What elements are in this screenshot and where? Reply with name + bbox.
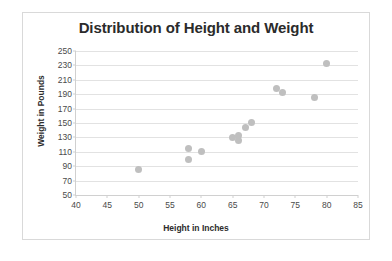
x-tick-mark xyxy=(170,195,171,198)
x-tick-mark xyxy=(326,195,327,198)
y-tick-mark xyxy=(73,65,76,66)
x-tick-mark xyxy=(358,195,359,198)
x-tick-label: 80 xyxy=(322,200,331,210)
y-tick-mark xyxy=(73,51,76,52)
gridline-horizontal xyxy=(76,109,358,110)
chart-frame: Distribution of Height and Weight Weight… xyxy=(22,12,370,240)
x-tick-mark xyxy=(295,195,296,198)
y-tick-mark xyxy=(73,123,76,124)
y-tick-label: 210 xyxy=(58,75,72,85)
y-tick-mark xyxy=(73,79,76,80)
y-tick-label: 70 xyxy=(63,176,72,186)
gridline-horizontal xyxy=(76,123,358,124)
y-axis-title: Weight in Pounds xyxy=(36,66,46,156)
x-axis-title: Height in Inches xyxy=(23,223,369,233)
data-point xyxy=(185,156,192,163)
data-point xyxy=(323,60,330,67)
gridline-horizontal xyxy=(76,152,358,153)
x-tick-label: 75 xyxy=(291,200,300,210)
y-tick-mark xyxy=(73,137,76,138)
y-tick-mark xyxy=(73,94,76,95)
x-tick-label: 50 xyxy=(134,200,143,210)
data-point xyxy=(311,94,318,101)
gridline-horizontal xyxy=(76,51,358,52)
x-tick-mark xyxy=(76,195,77,198)
x-tick-label: 45 xyxy=(103,200,112,210)
x-tick-mark xyxy=(201,195,202,198)
plot-area: 5070901101301501701902102302504045505560… xyxy=(75,51,358,196)
gridline-horizontal xyxy=(76,137,358,138)
x-tick-label: 70 xyxy=(259,200,268,210)
y-tick-mark xyxy=(73,108,76,109)
y-tick-label: 230 xyxy=(58,60,72,70)
y-tick-label: 110 xyxy=(58,147,72,157)
gridline-horizontal xyxy=(76,80,358,81)
y-tick-label: 170 xyxy=(58,104,72,114)
chart-title: Distribution of Height and Weight xyxy=(23,19,369,36)
data-point xyxy=(279,89,286,96)
data-point xyxy=(198,148,205,155)
data-point xyxy=(242,124,249,131)
x-tick-mark xyxy=(264,195,265,198)
y-tick-label: 150 xyxy=(58,118,72,128)
y-tick-label: 50 xyxy=(63,190,72,200)
x-tick-mark xyxy=(107,195,108,198)
x-tick-label: 65 xyxy=(228,200,237,210)
x-tick-label: 85 xyxy=(353,200,362,210)
y-tick-label: 190 xyxy=(58,89,72,99)
x-tick-mark xyxy=(138,195,139,198)
y-tick-label: 90 xyxy=(63,161,72,171)
y-tick-mark xyxy=(73,166,76,167)
data-point xyxy=(135,166,142,173)
gridline-horizontal xyxy=(76,65,358,66)
x-tick-mark xyxy=(232,195,233,198)
y-tick-label: 250 xyxy=(58,46,72,56)
data-point xyxy=(235,137,242,144)
x-tick-label: 55 xyxy=(165,200,174,210)
x-tick-label: 60 xyxy=(197,200,206,210)
x-tick-label: 40 xyxy=(71,200,80,210)
y-tick-mark xyxy=(73,180,76,181)
gridline-horizontal xyxy=(76,181,358,182)
y-tick-label: 130 xyxy=(58,132,72,142)
y-tick-mark xyxy=(73,151,76,152)
data-point xyxy=(248,119,255,126)
gridline-horizontal xyxy=(76,166,358,167)
